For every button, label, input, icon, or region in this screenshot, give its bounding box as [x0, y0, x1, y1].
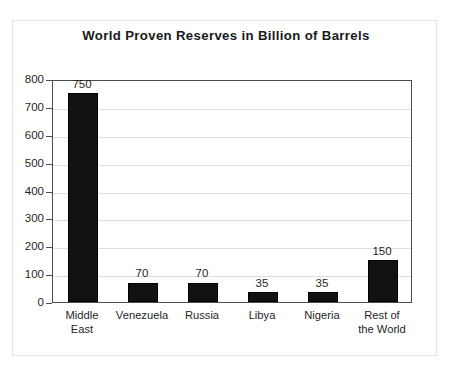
gridline	[53, 165, 411, 166]
x-category-label: Venezuela	[108, 309, 176, 323]
bar-value-label: 35	[232, 278, 292, 290]
y-tick-label: 0	[4, 297, 44, 309]
x-category-label: Nigeria	[288, 309, 356, 323]
gridline	[53, 109, 411, 110]
bar	[248, 292, 278, 302]
bar-value-label: 150	[352, 246, 412, 258]
bar-value-label: 70	[112, 268, 172, 280]
gridline	[53, 220, 411, 221]
gridline	[53, 193, 411, 194]
plot-area	[52, 80, 412, 303]
bar	[128, 283, 158, 303]
chart-figure: World Proven Reserves in Billion of Barr…	[0, 0, 452, 377]
y-tick-label: 200	[4, 241, 44, 253]
x-category-label: Russia	[168, 309, 236, 323]
bar	[188, 283, 218, 303]
y-tick-label: 300	[4, 213, 44, 225]
bar	[308, 292, 338, 302]
chart-title: World Proven Reserves in Billion of Barr…	[0, 28, 452, 43]
x-category-label: Rest of the World	[348, 309, 416, 336]
y-tick-label: 500	[4, 158, 44, 170]
bar-value-label: 35	[292, 278, 352, 290]
gridline	[53, 137, 411, 138]
y-tick-label: 100	[4, 269, 44, 281]
bar-value-label: 750	[52, 79, 112, 91]
x-category-label: Middle East	[48, 309, 116, 336]
y-tick-label: 600	[4, 130, 44, 142]
y-tick-mark	[46, 303, 52, 304]
x-category-label: Libya	[228, 309, 296, 323]
bar	[368, 260, 398, 302]
y-tick-label: 400	[4, 186, 44, 198]
y-tick-label: 800	[4, 74, 44, 86]
bar	[68, 93, 98, 302]
gridline	[53, 276, 411, 277]
bar-value-label: 70	[172, 268, 232, 280]
y-tick-label: 700	[4, 102, 44, 114]
